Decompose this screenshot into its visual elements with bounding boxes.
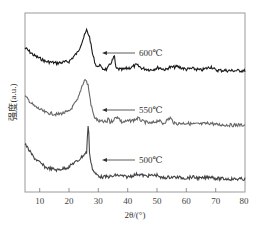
annotation-label-600: 600℃ [139, 48, 163, 58]
annotation-550: 550℃ [102, 105, 163, 115]
x-tick-labels: 10 20 30 40 50 60 70 80 [35, 196, 249, 206]
arrow-left-icon [102, 51, 107, 55]
annotation-600: 600℃ [102, 48, 163, 58]
annotation-label-550: 550℃ [139, 105, 163, 115]
series-line-550C [25, 80, 245, 127]
x-axis [40, 188, 216, 192]
annotation-500: 500℃ [102, 155, 163, 165]
series-layer [25, 29, 245, 180]
x-tick-label: 80 [240, 196, 250, 206]
x-tick-label: 30 [94, 196, 104, 206]
x-tick-label: 20 [65, 196, 75, 206]
x-tick-label: 60 [182, 196, 192, 206]
y-axis-title: 强度(a.u.) [7, 84, 18, 121]
x-tick-label: 40 [123, 196, 133, 206]
arrow-left-icon [102, 158, 107, 162]
x-tick-label: 10 [35, 196, 45, 206]
xrd-chart: 600℃ 550℃ 500℃ 10 20 30 40 50 60 70 80 2… [0, 0, 257, 228]
x-tick-label: 50 [153, 196, 163, 206]
x-tick-label: 70 [211, 196, 221, 206]
arrow-left-icon [102, 108, 107, 112]
series-line-600C [25, 29, 245, 72]
plot-frame [25, 13, 245, 192]
x-axis-title: 2θ/(°) [125, 210, 146, 220]
series-line-500C [25, 126, 245, 180]
annotation-label-500: 500℃ [139, 155, 163, 165]
